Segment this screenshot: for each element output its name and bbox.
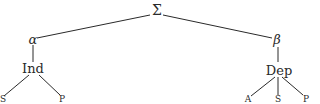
leaf-ind-s: S xyxy=(0,95,6,104)
node-ind: Ind xyxy=(22,62,44,75)
edge-dep-a xyxy=(251,77,275,96)
leaf-dep-s: S xyxy=(275,95,281,104)
leaf-dep-a: A xyxy=(245,95,252,104)
leaf-ind-p: P xyxy=(59,95,65,104)
node-dep: Dep xyxy=(266,64,292,77)
edge-root-alpha xyxy=(37,15,150,38)
leaf-dep-p: P xyxy=(303,95,309,104)
edge-root-beta xyxy=(163,15,272,38)
edge-ind-s xyxy=(4,75,29,96)
edge-ind-p xyxy=(39,75,60,95)
root-node-sigma: Σ xyxy=(152,3,162,17)
edge-dep-p xyxy=(282,77,303,95)
node-alpha: α xyxy=(29,33,38,46)
node-beta: β xyxy=(273,33,281,46)
